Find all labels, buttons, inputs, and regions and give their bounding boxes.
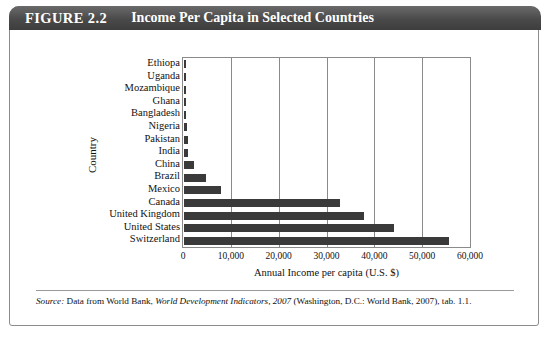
- category-label: Uganda: [147, 70, 180, 83]
- category-label: Mozambique: [125, 82, 180, 95]
- bar: [184, 237, 449, 245]
- x-axis-ticks: 010,00020,00030,00040,00050,00060,000: [182, 251, 471, 265]
- plot-frame: [182, 57, 471, 248]
- chart-area: Country EthiopaUgandaMozambiqueGhanaBang…: [10, 31, 538, 291]
- x-tick-label: 60,000: [457, 251, 483, 261]
- category-label: Ethiopa: [147, 57, 180, 70]
- source-text-before: Data from World Bank,: [67, 296, 153, 306]
- x-tick-label: 20,000: [266, 251, 292, 261]
- category-labels: EthiopaUgandaMozambiqueGhanaBangladeshNi…: [68, 57, 180, 248]
- bar: [184, 174, 206, 182]
- bar: [184, 161, 194, 169]
- category-label: Nigeria: [149, 120, 181, 133]
- bar: [184, 149, 188, 157]
- figure-card: FIGURE 2.2 Income Per Capita in Selected…: [9, 6, 539, 326]
- source-italic-title: World Development Indicators, 2007: [155, 296, 291, 306]
- category-label: Ghana: [153, 95, 180, 108]
- category-label: Switzerland: [130, 233, 180, 246]
- bar: [184, 60, 186, 68]
- bar: [184, 136, 188, 144]
- bar: [184, 73, 186, 81]
- category-label: Bangladesh: [131, 107, 180, 120]
- x-tick-label: 10,000: [218, 251, 244, 261]
- category-label: Pakistan: [144, 133, 180, 146]
- source-text-after: (Washington, D.C.: World Bank, 2007), ta…: [293, 296, 471, 306]
- category-label: India: [158, 145, 180, 158]
- category-label: Canada: [149, 196, 181, 209]
- bar: [184, 212, 364, 220]
- bar: [184, 111, 186, 119]
- x-tick-label: 40,000: [361, 251, 387, 261]
- bar-series: [184, 58, 469, 247]
- category-label: United States: [124, 221, 180, 234]
- bar: [184, 186, 221, 194]
- category-label: China: [155, 158, 180, 171]
- bar: [184, 86, 186, 94]
- source-note: Source: Data from World Bank, World Deve…: [36, 296, 520, 308]
- bar: [184, 98, 186, 106]
- x-tick-label: 50,000: [409, 251, 435, 261]
- source-divider: [36, 290, 514, 291]
- category-label: Brazil: [154, 170, 180, 183]
- bar: [184, 199, 340, 207]
- category-label: United Kingdom: [109, 208, 180, 221]
- figure-label: FIGURE 2.2: [25, 10, 107, 27]
- x-axis-label: Annual Income per capita (U.S. $): [182, 267, 471, 278]
- bar: [184, 123, 187, 131]
- category-label: Mexico: [148, 183, 180, 196]
- bar: [184, 224, 394, 232]
- figure-title: Income Per Capita in Selected Countries: [131, 10, 374, 26]
- x-tick-label: 0: [181, 251, 186, 261]
- figure-header: FIGURE 2.2 Income Per Capita in Selected…: [9, 6, 541, 30]
- source-prefix: Source:: [36, 296, 64, 306]
- x-tick-label: 30,000: [313, 251, 339, 261]
